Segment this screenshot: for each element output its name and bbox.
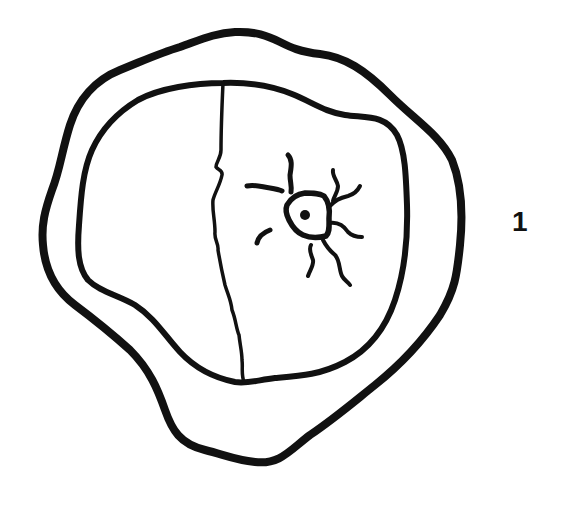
strand — [247, 185, 282, 191]
inner-body — [78, 83, 407, 383]
strand — [333, 170, 338, 201]
line-drawing-figure — [0, 0, 570, 518]
division-line — [213, 83, 244, 382]
nucleus-dot — [300, 210, 310, 220]
outer-wall — [42, 32, 461, 463]
strand — [330, 223, 362, 237]
strand — [323, 240, 350, 285]
strand — [288, 155, 291, 192]
strand — [308, 245, 313, 276]
radiate-structure — [247, 155, 362, 285]
strand — [257, 230, 270, 243]
figure-label: 1 — [512, 208, 528, 236]
